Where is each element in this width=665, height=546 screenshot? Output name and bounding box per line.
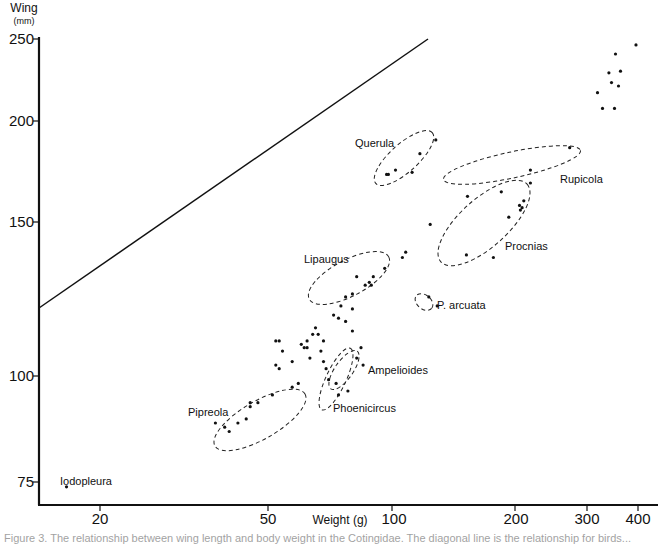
data-point (383, 267, 386, 270)
data-point (344, 320, 347, 323)
ellipse-procnias (425, 166, 543, 279)
data-point (372, 275, 375, 278)
y-tick-label-75: 75 (0, 473, 34, 490)
data-point (344, 295, 347, 298)
figure-caption: Figure 3. The relationship between wing … (4, 532, 631, 544)
data-point (355, 275, 358, 278)
data-point (617, 84, 620, 87)
data-point (214, 421, 217, 424)
data-point (619, 70, 622, 73)
data-point (601, 107, 604, 110)
data-point (418, 152, 421, 155)
y-tick-label-100: 100 (0, 367, 34, 384)
data-point (634, 43, 637, 46)
data-point (256, 401, 259, 404)
label-procnias: Procnias (505, 240, 548, 252)
scatter-plot (0, 0, 665, 546)
y-tick-label-200: 200 (0, 112, 34, 129)
data-point (291, 360, 294, 363)
data-point (306, 339, 309, 342)
ellipse-ampelioides (323, 346, 364, 394)
data-point (311, 333, 314, 336)
data-point (351, 329, 354, 332)
data-point (325, 367, 328, 370)
data-point (519, 209, 522, 212)
data-point (281, 350, 284, 353)
label-lipaugus: Lipaugus (304, 253, 349, 265)
data-point (465, 253, 468, 256)
data-point (306, 346, 309, 349)
y-tick-label-150: 150 (0, 213, 34, 230)
data-point (394, 169, 397, 172)
x-tick-label-200: 200 (496, 510, 536, 527)
data-point (355, 357, 358, 360)
data-point (434, 138, 437, 141)
data-point (300, 343, 303, 346)
data-point (303, 346, 306, 349)
data-point (322, 360, 325, 363)
x-tick-label-100: 100 (374, 510, 414, 527)
data-point (359, 346, 362, 349)
data-point (271, 393, 274, 396)
data-point (322, 339, 325, 342)
y-tick-label-250: 250 (0, 30, 34, 47)
data-point (297, 382, 300, 385)
label-querula: Querula (355, 137, 394, 149)
data-point (518, 204, 521, 207)
data-point (568, 146, 571, 149)
data-point (351, 307, 354, 310)
data-point (223, 426, 226, 429)
data-point (613, 107, 616, 110)
label-parcuata: P. arcuata (437, 299, 486, 311)
x-tick-label-50: 50 (248, 510, 288, 527)
data-point (327, 378, 330, 381)
data-point (404, 251, 407, 254)
x-tick-label-400: 400 (618, 510, 658, 527)
data-point (236, 421, 239, 424)
data-point (278, 367, 281, 370)
data-point (308, 357, 311, 360)
data-point (337, 393, 340, 396)
label-pipreola: Pipreola (188, 406, 228, 418)
data-point (337, 317, 340, 320)
label-iodopleura: Iodopleura (60, 475, 112, 487)
data-point (411, 171, 414, 174)
label-rupicola: Rupicola (560, 173, 603, 185)
data-point (335, 382, 338, 385)
data-point (274, 339, 277, 342)
data-point (317, 333, 320, 336)
data-point (429, 223, 432, 226)
data-point (522, 199, 525, 202)
data-point (346, 389, 349, 392)
data-point (249, 401, 252, 404)
data-point (427, 295, 430, 298)
data-point (332, 314, 335, 317)
data-point (291, 386, 294, 389)
ellipse-pipreola (205, 378, 314, 463)
data-point (492, 256, 495, 259)
ellipse-parcuata (412, 290, 436, 314)
data-point (500, 190, 503, 193)
data-point (274, 364, 277, 367)
data-point (228, 430, 231, 433)
data-point (319, 350, 322, 353)
data-point (610, 81, 613, 84)
x-axis-title: Weight (g) (300, 513, 380, 527)
data-point (249, 405, 252, 408)
label-ampelioides: Ampelioides (368, 364, 428, 376)
data-point (401, 256, 404, 259)
label-phoenicircus: Phoenicircus (333, 402, 396, 414)
data-point (387, 173, 390, 176)
data-point (364, 284, 367, 287)
data-point (607, 71, 610, 74)
data-point (278, 339, 281, 342)
ellipse-querula (366, 122, 441, 194)
data-point (529, 181, 532, 184)
y-axis-title: Wing (4, 2, 44, 14)
data-point (245, 417, 248, 420)
reference-diagonal-line (39, 39, 428, 308)
data-point (466, 195, 469, 198)
data-point (351, 292, 354, 295)
data-point (314, 326, 317, 329)
y-axis-unit: (mm) (4, 16, 44, 26)
